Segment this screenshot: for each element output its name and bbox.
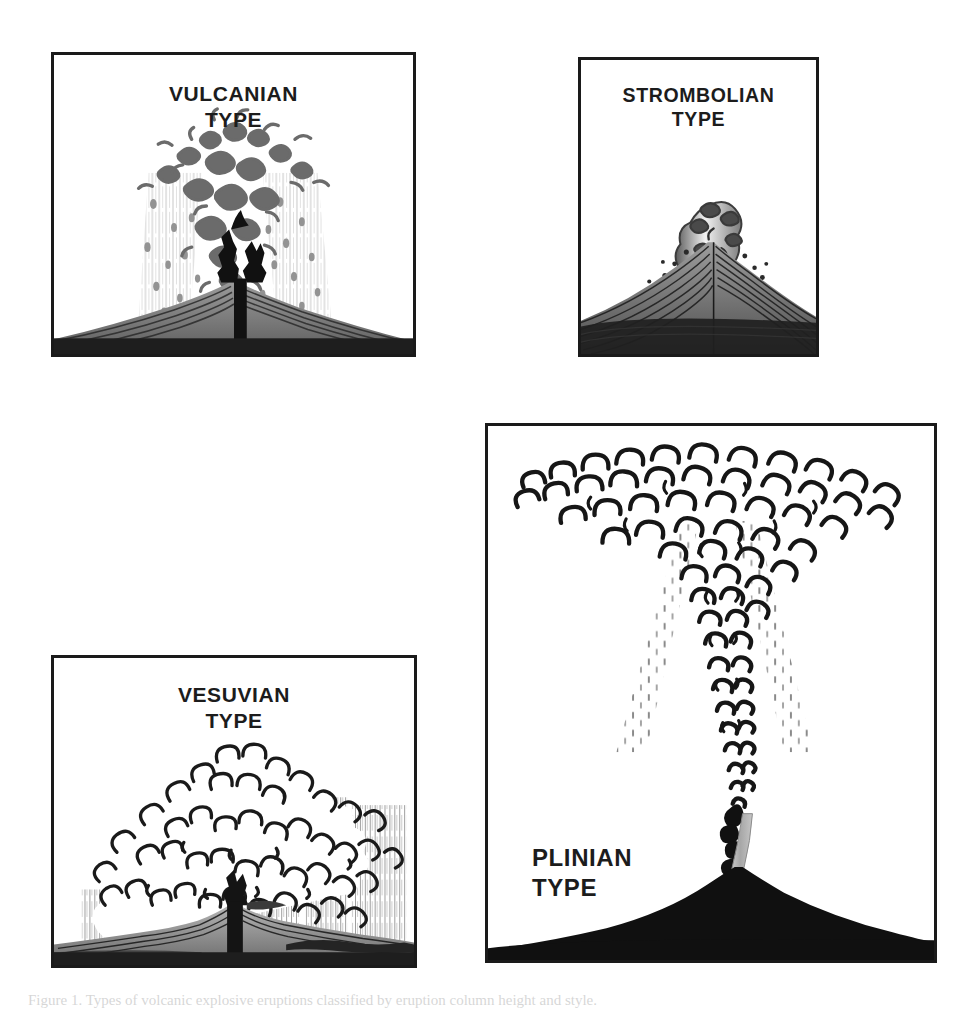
plinian-column [516,444,899,806]
vulcanian-ground [54,338,413,354]
panel-title-vesuvian: VESUVIAN TYPE [54,682,414,733]
plinian-ashfall [606,515,833,762]
panel-title-plinian: PLINIAN TYPE [532,843,632,903]
panel-vesuvian: VESUVIAN TYPE [51,655,417,968]
panel-vulcanian: VULCANIAN TYPE [51,52,416,357]
figure-caption: Figure 1. Types of volcanic explosive er… [28,992,943,1009]
panel-title-vulcanian: VULCANIAN TYPE [54,81,413,132]
panel-strombolian: STROMBOLIAN TYPE [578,57,819,357]
panel-title-strombolian: STROMBOLIAN TYPE [581,84,816,132]
panel-plinian: PLINIAN TYPE [485,423,937,963]
vesuvian-ground [54,952,414,965]
